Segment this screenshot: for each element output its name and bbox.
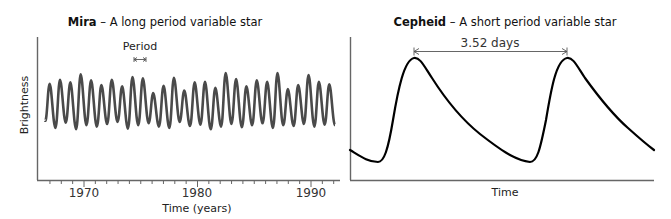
mira-light-curve xyxy=(45,73,335,129)
mira-tick-1970: 1970 xyxy=(69,186,100,200)
cepheid-period-label: 3.52 days xyxy=(461,36,520,50)
cepheid-x-axis-label: Time xyxy=(491,186,519,199)
mira-tick-1980: 1980 xyxy=(182,186,213,200)
mira-x-axis-label: Time (years) xyxy=(161,202,231,215)
mira-period-arrow xyxy=(134,57,146,62)
mira-chart: Mira – A long period variable star Brigh… xyxy=(18,15,340,215)
mira-title: Mira – A long period variable star xyxy=(68,15,263,29)
cepheid-light-curve xyxy=(350,58,654,162)
cepheid-chart: Cepheid – A short period variable star T… xyxy=(350,15,654,199)
mira-period-label: Period xyxy=(123,40,157,53)
variable-stars-figure: Mira – A long period variable star Brigh… xyxy=(0,0,671,219)
cepheid-title: Cepheid – A short period variable star xyxy=(393,15,616,29)
mira-tick-1990: 1990 xyxy=(296,186,327,200)
mira-y-axis-label: Brightness xyxy=(18,75,31,134)
